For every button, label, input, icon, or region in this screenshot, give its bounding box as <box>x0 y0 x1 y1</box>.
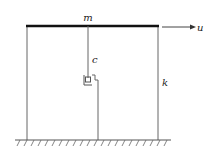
displacement-label: u <box>197 22 203 33</box>
damper-icon <box>84 26 98 140</box>
mass-label: m <box>83 12 92 23</box>
stiffness-label: k <box>162 77 168 88</box>
damper-label: c <box>92 54 98 65</box>
frame-diagram: m c k u <box>0 0 212 161</box>
displacement-arrow-icon <box>162 25 196 30</box>
ground-hatch-icon <box>15 140 171 146</box>
